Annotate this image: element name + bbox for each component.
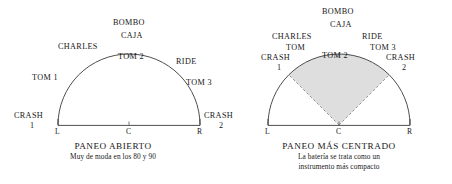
- label-crash-1-text: CRASH: [14, 112, 43, 121]
- label-charles: CHARLES: [272, 33, 312, 42]
- label-crash-1-number: 1: [30, 122, 34, 131]
- label-crash-1-text: CRASH: [261, 54, 290, 63]
- label-ride: RIDE: [176, 58, 197, 67]
- panel-paneo-mas-centrado: BOMBO CAJA CHARLES TOM CRASH 1 RIDE TOM …: [226, 0, 452, 184]
- axis-label-left: L: [265, 127, 270, 136]
- axis-label-center: C: [126, 127, 131, 136]
- caption-subtitle-line: La batería se trata como un: [226, 152, 452, 162]
- label-caja: CAJA: [330, 21, 352, 30]
- axis-label-left: L: [55, 127, 60, 136]
- label-tom-3: TOM 3: [370, 44, 396, 53]
- caption-subtitle-line: instrumento más compacto: [226, 162, 452, 172]
- label-caja: CAJA: [121, 32, 143, 41]
- axis-label-right: R: [197, 127, 202, 136]
- panel-paneo-abierto: CRASH 1 TOM 1 CHARLES BOMBO CAJA TOM 2 R…: [0, 0, 226, 184]
- axis-label-center: C: [336, 127, 341, 136]
- label-tom: TOM: [286, 44, 305, 53]
- label-tom-3: TOM 3: [186, 79, 212, 88]
- caption-centered: PANEO MÁS CENTRADO La batería se trata c…: [226, 141, 452, 171]
- label-tom-1: TOM 1: [32, 74, 58, 83]
- label-charles: CHARLES: [58, 43, 98, 52]
- axis-label-right: R: [407, 127, 412, 136]
- caption-subtitle: Muy de moda en los 80 y 90: [0, 152, 226, 162]
- caption-subtitle-line: Muy de moda en los 80 y 90: [0, 152, 226, 162]
- label-bombo: BOMBO: [113, 19, 145, 28]
- label-tom-2: TOM 2: [322, 52, 348, 61]
- label-bombo: BOMBO: [322, 8, 354, 17]
- label-ride: RIDE: [362, 33, 383, 42]
- caption-subtitle: La batería se trata como un instrumento …: [226, 152, 452, 171]
- caption-title: PANEO ABIERTO: [0, 141, 226, 151]
- figure-root: CRASH 1 TOM 1 CHARLES BOMBO CAJA TOM 2 R…: [0, 0, 452, 184]
- label-crash-2-number: 2: [402, 64, 406, 73]
- caption-open: PANEO ABIERTO Muy de moda en los 80 y 90: [0, 141, 226, 162]
- label-tom-2: TOM 2: [118, 53, 144, 62]
- caption-title: PANEO MÁS CENTRADO: [226, 141, 452, 151]
- label-crash-1-number: 1: [277, 64, 281, 73]
- label-crash-2-text: CRASH: [386, 54, 415, 63]
- label-crash-2-number: 2: [219, 122, 223, 131]
